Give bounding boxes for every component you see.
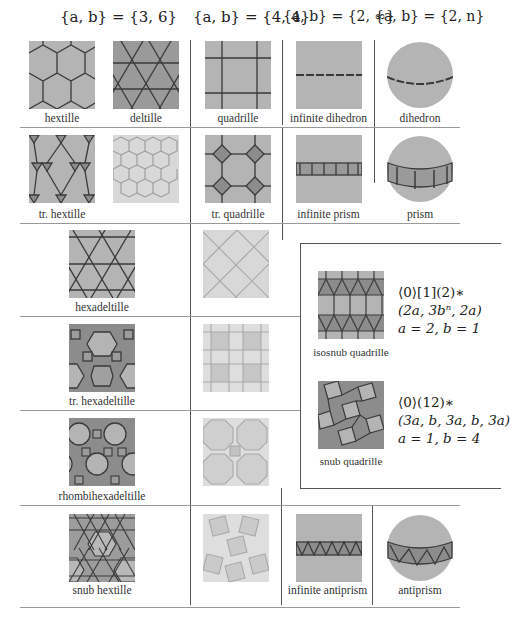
isosnub-formula-3: a = 2, b = 1 [398, 319, 480, 337]
label-tr-quadrille: tr. quadrille [205, 208, 271, 220]
row-divider-2 [20, 223, 460, 224]
isosnub-formula-1: ⟨0⟩[1](2)∗ [398, 283, 465, 301]
row-divider-1 [20, 127, 460, 128]
infinite-prism-tile [296, 135, 362, 203]
label-tr-hextille: tr. hextille [29, 208, 95, 220]
label-quadrille: quadrille [205, 112, 271, 124]
snub-quadrille-tile [318, 381, 384, 449]
quadrille-tile [205, 41, 271, 109]
snub-hextille-tile [69, 514, 135, 582]
row-divider-6 [20, 607, 460, 608]
divider-v3 [374, 40, 375, 183]
divider-v1 [190, 40, 191, 605]
row-divider-3 [20, 316, 300, 317]
light-grid-tile [203, 324, 269, 392]
label-antiprism: antiprism [387, 584, 453, 596]
infinite-antiprism-tile [296, 514, 362, 582]
snub-formula-1: ⟨0⟩(12)∗ [398, 393, 454, 411]
label-deltille: deltille [113, 112, 179, 124]
label-snub-hextille: snub hextille [52, 584, 152, 596]
label-infinite-dihedron: infinite dihedron [283, 112, 374, 124]
rhombihexadeltille-tile [69, 418, 135, 486]
hexadeltille-tile [69, 230, 135, 298]
header-col-3-6: {a, b} = {3, 6} [60, 8, 177, 26]
label-dihedron: dihedron [387, 112, 453, 124]
prism-sphere [387, 135, 453, 203]
deltille-tile [113, 41, 179, 109]
label-hexadeltille: hexadeltille [52, 301, 152, 313]
isosnub-quadrille-tile [318, 271, 384, 339]
dihedron-sphere [387, 41, 453, 109]
label-infinite-prism: infinite prism [283, 208, 374, 220]
tr-hextille-tile [29, 135, 95, 203]
light-snub-quadrille-tile [203, 514, 269, 582]
tr-hexadeltille-tile [69, 324, 135, 392]
light-quadrille-rotated-tile [203, 230, 269, 298]
row-divider-4 [20, 410, 300, 411]
snub-formula-3: a = 1, b = 4 [398, 429, 480, 447]
light-tr-quadrille-tile [203, 418, 269, 486]
label-rhombihexadeltille: rhombihexadeltille [42, 490, 162, 502]
hextille-tile [29, 41, 95, 109]
light-hextille-tile [113, 135, 179, 203]
infinite-dihedron-tile [296, 41, 362, 109]
label-infinite-antiprism: infinite antiprism [282, 584, 373, 596]
label-isosnub-quadrille: isosnub quadrille [300, 346, 402, 358]
label-hextille: hextille [29, 112, 95, 124]
snub-formula-2: (3a, b, 3a, b, 3a) [398, 411, 510, 429]
header-col-2-n: {a, b} = {2, n} [375, 8, 484, 24]
label-tr-hexadeltille: tr. hexadeltille [52, 395, 152, 407]
tr-quadrille-tile [205, 135, 271, 203]
isosnub-formula-2: (2a, 3bⁿ, 2a) [398, 301, 482, 319]
antiprism-sphere [387, 514, 453, 582]
row-divider-5 [20, 505, 460, 506]
label-snub-quadrille: snub quadrille [300, 455, 402, 467]
label-prism: prism [387, 208, 453, 220]
